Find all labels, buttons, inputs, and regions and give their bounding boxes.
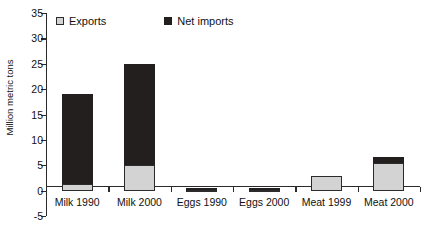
bar-segment-net-imports[interactable]	[186, 188, 217, 190]
y-axis-title-label: Million metric tons	[4, 59, 15, 135]
y-axis-tick-label: 5	[37, 159, 43, 171]
y-axis-tick-label: 20	[31, 83, 43, 95]
x-axis-tick-mark	[295, 187, 296, 192]
legend-swatch-imports	[164, 17, 172, 25]
x-axis-tick-mark	[108, 187, 109, 192]
bar-segment-net-imports[interactable]	[124, 64, 155, 166]
x-axis-tick-mark	[420, 187, 421, 192]
bar-segment-exports[interactable]	[373, 163, 404, 191]
x-axis-category-label: Meat 2000	[358, 196, 420, 208]
bar-segment-exports[interactable]	[124, 165, 155, 190]
legend-item[interactable]: Exports	[56, 15, 106, 27]
bar-column[interactable]	[186, 13, 217, 216]
x-axis-tick-mark	[171, 187, 172, 192]
y-axis-tick-label: 10	[31, 134, 43, 146]
bar-segment-net-imports[interactable]	[249, 188, 280, 190]
bar-segment-exports[interactable]	[62, 184, 93, 191]
legend-label: Net imports	[177, 15, 233, 27]
y-axis-tick-label: 15	[31, 109, 43, 121]
y-axis-tick-label: 0	[37, 185, 43, 197]
chart-legend: ExportsNet imports	[56, 15, 234, 27]
x-axis-tick-mark	[233, 187, 234, 192]
y-axis-tick-label: 35	[31, 7, 43, 19]
bar-column[interactable]	[311, 13, 342, 216]
x-axis-tick-mark	[358, 187, 359, 192]
x-axis-category-label: Eggs 1990	[171, 196, 233, 208]
y-axis-tick-label: -5	[34, 210, 43, 222]
x-axis-category-label: Milk 2000	[108, 196, 170, 208]
x-axis-category-label: Eggs 2000	[233, 196, 295, 208]
y-axis-tick-label: 25	[31, 58, 43, 70]
plot-area: 35302520151050-5	[46, 13, 420, 216]
bar-column[interactable]	[373, 13, 404, 216]
x-axis-category-label: Meat 1999	[295, 196, 357, 208]
bar-column[interactable]	[62, 13, 93, 216]
x-axis-tick-mark	[46, 187, 47, 192]
bar-segment-exports[interactable]	[311, 176, 342, 190]
legend-item[interactable]: Net imports	[164, 15, 233, 27]
bar-column[interactable]	[249, 13, 280, 216]
legend-label: Exports	[69, 15, 106, 27]
bar-segment-exports[interactable]	[249, 190, 280, 192]
bar-segment-net-imports[interactable]	[62, 94, 93, 184]
legend-swatch-exports	[56, 17, 64, 25]
y-axis-tick-label: 30	[31, 32, 43, 44]
x-axis-category-label: Milk 1990	[46, 196, 108, 208]
y-axis-title: Million metric tons	[0, 0, 18, 195]
bar-column[interactable]	[124, 13, 155, 216]
bar-segment-net-imports[interactable]	[373, 157, 404, 163]
bar-chart: Million metric tons 35302520151050-5 Mil…	[0, 0, 428, 231]
bar-segment-exports[interactable]	[186, 190, 217, 192]
